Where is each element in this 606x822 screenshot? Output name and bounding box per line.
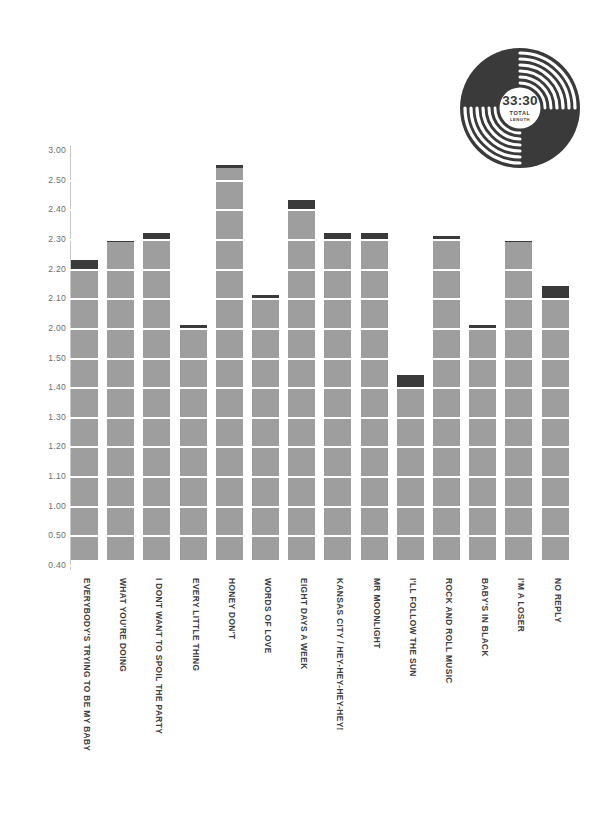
x-label-3: EVERY LITTLE THING	[191, 578, 201, 671]
plot-area: 3.002.502.402.302.202.102.001.501.401.30…	[0, 0, 606, 600]
x-label-11: BABY'S IN BLACK	[480, 578, 490, 657]
bar-10[interactable]	[433, 236, 460, 560]
x-label-4: HONEY DON'T	[227, 578, 237, 640]
bar-cap	[252, 295, 279, 298]
x-label-10: ROCK AND ROLL MUSIC	[444, 578, 454, 684]
x-label-5: WORDS OF LOVE	[263, 578, 273, 654]
chart-root: 33:30 TOTAL LENGTH 3.002.502.402.302.202…	[0, 0, 606, 822]
bar-body	[361, 233, 388, 560]
bar-8[interactable]	[361, 233, 388, 560]
bar-1[interactable]	[107, 239, 134, 560]
bar-cap	[542, 286, 569, 298]
x-label-6: EIGHT DAYS A WEEK	[299, 578, 309, 670]
x-label-13: NO REPLY	[553, 578, 563, 623]
bar-5[interactable]	[252, 295, 279, 560]
bar-cap	[397, 375, 424, 387]
x-label-12: I'M A LOSER	[516, 578, 526, 632]
x-label-8: MR MOONLIGHT	[372, 578, 382, 649]
x-label-0: EVERYBODY'S TRYING TO BE MY BABY	[82, 578, 92, 751]
bar-body	[216, 165, 243, 560]
bar-cap	[469, 325, 496, 328]
bar-body	[397, 375, 424, 560]
bar-11[interactable]	[469, 325, 496, 560]
bar-cap	[505, 239, 532, 242]
bar-4[interactable]	[216, 165, 243, 560]
bar-body	[469, 325, 496, 560]
bar-12[interactable]	[505, 239, 532, 560]
bar-0[interactable]	[71, 260, 98, 560]
bar-cap	[143, 233, 170, 239]
bar-cap	[361, 233, 388, 239]
bar-body	[288, 200, 315, 560]
bar-cap	[180, 325, 207, 328]
x-label-9: I'LL FOLLOW THE SUN	[408, 578, 418, 677]
bar-cap	[216, 165, 243, 168]
bar-3[interactable]	[180, 325, 207, 560]
bar-cap	[324, 233, 351, 239]
bar-body	[505, 239, 532, 560]
bar-body	[542, 286, 569, 560]
bar-7[interactable]	[324, 233, 351, 560]
bar-body	[252, 295, 279, 560]
bar-cap	[288, 200, 315, 209]
bar-body	[143, 233, 170, 560]
bar-cap	[433, 236, 460, 239]
x-label-1: WHAT YOU'RE DOING	[118, 578, 128, 672]
bar-body	[71, 260, 98, 560]
bar-body	[433, 236, 460, 560]
bar-6[interactable]	[288, 200, 315, 560]
bar-cap	[71, 260, 98, 269]
bar-body	[324, 233, 351, 560]
bar-13[interactable]	[542, 286, 569, 560]
x-label-7: KANSAS CITY / HEY-HEY-HEY-HEY!	[335, 578, 345, 731]
bar-cap	[107, 239, 134, 242]
x-axis-category-labels: EVERYBODY'S TRYING TO BE MY BABYWHAT YOU…	[0, 578, 606, 822]
bar-body	[180, 325, 207, 560]
x-label-2: I DONT WANT TO SPOIL THE PARTY	[154, 578, 164, 734]
bar-body	[107, 239, 134, 560]
bar-series	[0, 0, 606, 600]
bar-9[interactable]	[397, 375, 424, 560]
bar-2[interactable]	[143, 233, 170, 560]
